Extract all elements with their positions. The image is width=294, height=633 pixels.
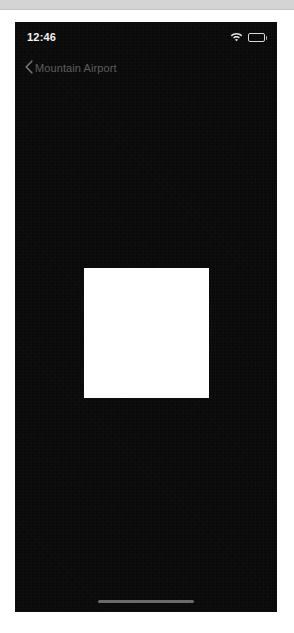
back-button-label: Mountain Airport <box>35 62 117 74</box>
content-placeholder[interactable] <box>84 268 209 398</box>
page-top-strip <box>0 0 294 10</box>
content-area <box>15 84 277 612</box>
home-indicator[interactable] <box>98 600 194 603</box>
back-button[interactable]: Mountain Airport <box>21 58 121 79</box>
wifi-icon <box>230 28 243 46</box>
chevron-left-icon <box>25 60 33 77</box>
status-bar-time: 12:46 <box>27 31 56 43</box>
status-bar-indicators <box>230 28 265 46</box>
home-indicator-area <box>15 590 277 612</box>
battery-icon <box>248 33 265 42</box>
navigation-bar: Mountain Airport <box>15 52 277 84</box>
phone-screen: 12:46 Mountain Airport <box>15 22 277 612</box>
status-bar: 12:46 <box>15 22 277 52</box>
